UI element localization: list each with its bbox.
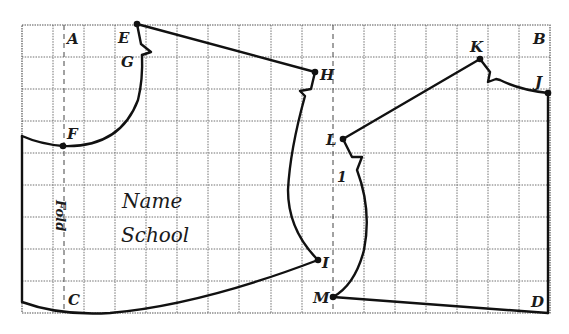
label-j: J (532, 73, 543, 91)
piece-number: 1 (337, 169, 347, 185)
point-f-dot (60, 143, 67, 150)
point-e-dot (134, 21, 141, 28)
label-b: B (532, 30, 546, 48)
grid (22, 25, 550, 313)
pattern-diagram: A B C D E G F H I K J L M 1 Fold Name Sc… (0, 0, 569, 334)
label-e: E (117, 29, 130, 47)
point-m-dot (330, 294, 337, 301)
label-m: M (312, 289, 330, 307)
school-label: School (121, 223, 189, 247)
fold-label: Fold (53, 199, 68, 231)
pattern-piece-front (333, 59, 548, 313)
label-i: I (321, 254, 330, 272)
label-c: C (68, 291, 80, 309)
label-k: K (469, 38, 484, 56)
point-k-dot (477, 56, 484, 63)
point-l-dot (340, 136, 347, 143)
label-a: A (65, 30, 79, 48)
pattern-piece-back (22, 24, 318, 314)
label-f: F (66, 125, 79, 143)
label-l: L (325, 131, 337, 149)
label-d: D (530, 293, 544, 311)
label-g: G (121, 53, 134, 71)
grid-border (22, 25, 550, 313)
name-label: Name (121, 189, 182, 213)
point-j-dot (545, 90, 552, 97)
label-h: H (319, 66, 335, 84)
point-h-dot (312, 69, 319, 76)
point-i-dot (315, 257, 322, 264)
